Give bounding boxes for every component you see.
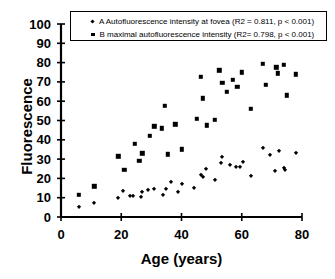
chart-figure: 0102030405060708090100 020406080 Fluores… [0,0,335,279]
y-tick-label: 0 [23,211,51,224]
square-marker-icon [91,33,95,37]
data-point-b [224,89,228,93]
y-tick-label: 90 [23,37,51,50]
data-point-b [122,168,126,172]
x-tick-label: 20 [106,228,136,241]
x-tick-label: 40 [167,228,197,241]
data-point-b [194,116,198,120]
data-point-b [212,117,216,121]
data-point-b [160,126,164,130]
legend-item-a: A Autofluorescence intensity at fovea (R… [91,15,314,28]
data-point-b [133,141,137,145]
legend-label-b: B maximal autofluorescence intensity (R2… [100,30,315,39]
legend-item-b: B maximal autofluorescence intensity (R2… [91,28,314,41]
diamond-marker-icon [90,19,94,23]
data-point-b [137,159,141,163]
data-point-b [163,104,167,108]
data-point-b [166,152,170,156]
data-point-b [285,93,289,97]
data-point-b [116,154,120,158]
data-point-b [217,68,221,72]
x-tick-label: 60 [227,228,257,241]
data-point-b [200,96,204,100]
x-tick-label: 0 [46,228,76,241]
data-point-b [276,71,280,75]
data-point-b [231,78,235,82]
data-point-b [264,83,268,87]
chart-legend: A Autofluorescence intensity at fovea (R… [70,11,327,41]
x-tick-label: 80 [287,228,317,241]
data-point-b [274,65,278,69]
data-point-b [148,134,152,138]
data-point-b [152,124,156,128]
legend-label-a: A Autofluorescence intensity at fovea (R… [99,17,314,26]
data-point-b [199,75,203,79]
data-point-b [240,70,244,74]
data-point-b [282,62,286,66]
data-point-b [179,147,183,151]
y-tick-label: 100 [23,18,51,31]
x-axis-title: Age (years) [61,250,302,267]
y-axis-title: Fluorescence [18,57,35,197]
data-point-b [235,85,239,89]
data-point-b [92,184,96,188]
data-point-b [77,193,81,197]
data-point-b [205,123,209,127]
data-point-b [220,81,224,85]
data-point-b [249,107,253,111]
data-point-b [294,72,298,76]
data-point-b [261,61,265,65]
data-point-b [173,122,177,126]
data-point-b [140,151,144,155]
